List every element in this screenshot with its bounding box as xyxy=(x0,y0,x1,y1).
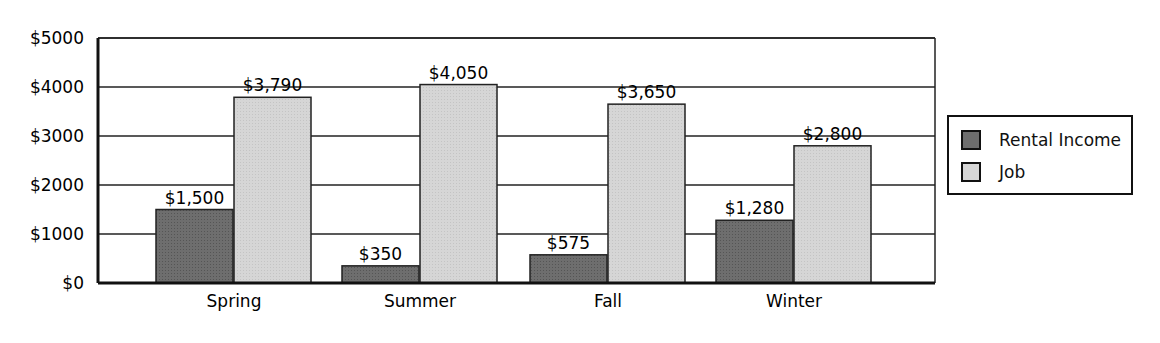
legend-item-job: Job xyxy=(961,161,1025,183)
data-label: $575 xyxy=(547,233,590,253)
y-tick-label: $0 xyxy=(62,273,84,293)
data-label: $3,790 xyxy=(243,75,302,95)
x-axis-labels: SpringSummerFallWinter xyxy=(207,291,822,311)
data-label: $1,280 xyxy=(725,198,784,218)
x-tick-label: Spring xyxy=(207,291,262,311)
data-label: $1,500 xyxy=(165,188,224,208)
bar-fall-rental-income: $575 xyxy=(530,233,607,283)
x-tick-label: Winter xyxy=(766,291,822,311)
bar-fall-job: $3,650 xyxy=(608,82,685,283)
legend-item-rental-income: Rental Income xyxy=(961,129,1121,151)
data-label: $2,800 xyxy=(803,124,862,144)
bar-summer-job: $4,050 xyxy=(420,63,497,283)
bars: $1,500$3,790$350$4,050$575$3,650$1,280$2… xyxy=(156,63,871,283)
legend-label: Rental Income xyxy=(999,130,1121,150)
y-tick-label: $3000 xyxy=(30,126,84,146)
y-tick-label: $2000 xyxy=(30,175,84,195)
y-tick-label: $5000 xyxy=(30,28,84,48)
bar-winter-job: $2,800 xyxy=(794,124,871,283)
data-label: $4,050 xyxy=(429,63,488,83)
legend-label: Job xyxy=(999,162,1025,182)
bar-summer-rental-income: $350 xyxy=(342,244,419,283)
y-tick-label: $4000 xyxy=(30,77,84,97)
legend-swatch-job xyxy=(961,162,981,182)
legend: Rental Income Job xyxy=(947,115,1133,195)
data-label: $3,650 xyxy=(617,82,676,102)
y-axis-ticks: $0$1000$2000$3000$4000$5000 xyxy=(30,28,84,293)
bar-spring-rental-income: $1,500 xyxy=(156,188,233,284)
y-tick-label: $1000 xyxy=(30,224,84,244)
x-tick-label: Fall xyxy=(594,291,622,311)
legend-swatch-rental-income xyxy=(961,130,981,150)
bar-spring-job: $3,790 xyxy=(234,75,311,283)
x-tick-label: Summer xyxy=(384,291,456,311)
data-label: $350 xyxy=(359,244,402,264)
bar-winter-rental-income: $1,280 xyxy=(716,198,793,283)
